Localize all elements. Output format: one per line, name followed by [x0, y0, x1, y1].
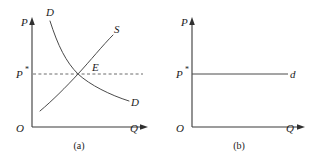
panel-a-y-axis-label: P [20, 16, 28, 28]
panel-b-y-axis-arrowhead [189, 17, 195, 25]
panel-a-x-axis-arrowhead [140, 124, 148, 130]
economics-figure: P Q O P * D D S E (a) P Q O [0, 0, 313, 158]
panel-a-x-axis-label: Q [130, 122, 138, 134]
panel-a-demand-label-bottom: D [130, 96, 139, 108]
panel-b-x-axis-label: Q [286, 122, 294, 134]
panel-a-price-label: P [15, 68, 23, 80]
panel-b: P Q O P * d (b) [175, 16, 305, 152]
panel-b-price-star: * [185, 65, 189, 74]
panel-a-origin-label: O [16, 122, 24, 134]
panel-b-caption: (b) [233, 140, 245, 152]
panel-a-price-star: * [25, 65, 29, 74]
panel-b-x-axis-arrowhead [297, 124, 305, 130]
panel-b-origin-label: O [176, 122, 184, 134]
panel-b-price-label: P [175, 68, 183, 80]
panel-b-y-axis-label: P [180, 16, 188, 28]
panel-a: P Q O P * D D S E (a) [15, 6, 148, 152]
panel-a-demand-label-top: D [45, 6, 54, 18]
panel-b-demand-label: d [290, 68, 296, 80]
panel-a-equilibrium-label: E [91, 61, 99, 73]
panel-a-y-axis-arrowhead [29, 17, 35, 25]
panel-a-supply-label: S [114, 23, 120, 35]
panel-a-caption: (a) [73, 140, 84, 152]
